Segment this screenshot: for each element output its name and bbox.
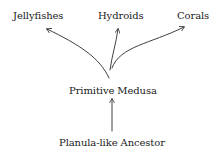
node-hydroids: Hydroids xyxy=(98,10,144,22)
node-corals: Corals xyxy=(177,10,209,22)
node-planula-like-ancestor: Planula-like Ancestor xyxy=(59,137,165,149)
diagram-arrows xyxy=(0,0,221,157)
node-jellyfishes: Jellyfishes xyxy=(13,10,63,22)
node-primitive-medusa: Primitive Medusa xyxy=(69,85,157,97)
edge-medusa-to-corals-arrow xyxy=(112,27,184,68)
edge-medusa-to-jellyfishes-arrow xyxy=(47,29,109,78)
